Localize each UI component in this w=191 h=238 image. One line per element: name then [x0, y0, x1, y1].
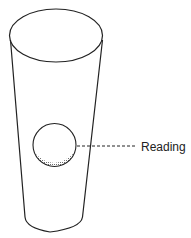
float-ball	[32, 124, 77, 171]
tube-right-wall	[50, 40, 103, 232]
tube-left-wall	[11, 40, 51, 232]
tube-top-opening	[10, 9, 103, 62]
tapered-tube	[10, 9, 103, 232]
flowmeter-diagram: Reading	[0, 0, 191, 238]
reading-label: Reading	[141, 140, 186, 154]
